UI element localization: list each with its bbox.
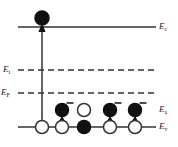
valence-site-open-0 xyxy=(36,121,49,134)
level-label-ev: Ev xyxy=(159,122,168,131)
valence-site-open-3 xyxy=(104,121,117,134)
valence-site-open-1 xyxy=(56,121,69,134)
acceptor-site-open-1 xyxy=(78,104,91,117)
valence-site-filled-2 xyxy=(78,121,91,134)
level-label-ec: Ec xyxy=(159,22,167,31)
electron-in-conduction-band xyxy=(35,11,49,25)
valence-site-open-4 xyxy=(129,121,142,134)
acceptor-site-filled-0 xyxy=(56,104,69,117)
level-label-ea: Ea xyxy=(159,105,167,114)
band-diagram-figure: Ec Ei EF Ea Ev xyxy=(0,0,178,147)
acceptor-site-filled-2 xyxy=(104,104,117,117)
level-label-ef: EF xyxy=(1,88,10,97)
acceptor-site-filled-3 xyxy=(129,104,142,117)
band-diagram-canvas xyxy=(0,0,178,147)
level-label-ei: Ei xyxy=(3,65,10,74)
